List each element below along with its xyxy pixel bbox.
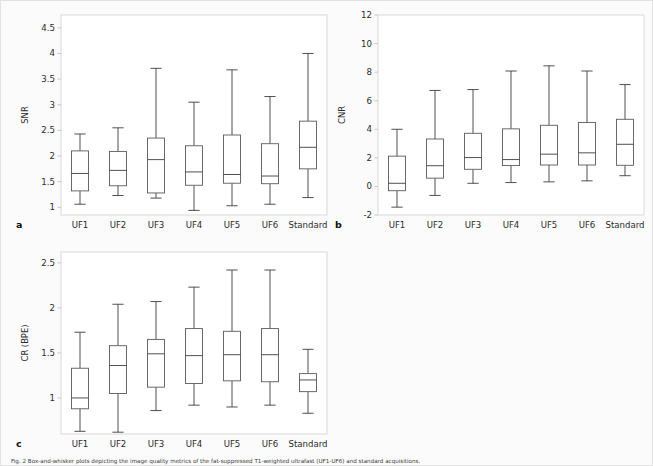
y-axis-tick-label: 4 xyxy=(367,124,372,134)
y-axis-tick-label: 3 xyxy=(50,100,55,110)
x-axis-label-uf6: UF6 xyxy=(262,220,279,230)
x-axis-label-uf5: UF5 xyxy=(541,220,558,230)
panel-b-cnr: -2024681012CNRUF1UF2UF3UF4UF5UF6Standard… xyxy=(334,7,652,239)
box-iqr xyxy=(262,144,279,184)
y-axis-tick-label: 2 xyxy=(50,303,55,313)
y-axis-title: CR (BPE) xyxy=(20,325,30,362)
x-axis-label-uf3: UF3 xyxy=(148,439,165,449)
y-axis-tick-label: 2.5 xyxy=(41,125,55,135)
box-iqr xyxy=(186,146,203,185)
x-axis-label-uf5: UF5 xyxy=(224,220,241,230)
box-iqr xyxy=(465,133,482,169)
box-iqr xyxy=(224,331,241,381)
x-axis-label-uf3: UF3 xyxy=(148,220,165,230)
box-iqr xyxy=(72,151,89,191)
y-axis-tick-label: 4 xyxy=(50,48,55,58)
x-axis-label-uf4: UF4 xyxy=(503,220,520,230)
panel-c-chart: 11.522.5CR (BPE)UF1UF2UF3UF4UF5UF6Standa… xyxy=(15,244,335,458)
x-axis-label-uf4: UF4 xyxy=(186,439,203,449)
x-axis-label-uf3: UF3 xyxy=(465,220,482,230)
x-axis-label-uf2: UF2 xyxy=(427,220,444,230)
box-iqr xyxy=(148,339,165,387)
box-iqr xyxy=(503,129,520,166)
x-axis-label-standard: Standard xyxy=(605,220,644,230)
box-iqr xyxy=(427,139,444,178)
y-axis-tick-label: 8 xyxy=(367,67,372,77)
box-iqr xyxy=(110,346,127,394)
panel-a-chart: 11.522.533.544.5SNRUF1UF2UF3UF4UF5UF6Sta… xyxy=(15,7,335,239)
x-axis-label-uf4: UF4 xyxy=(186,220,203,230)
panel-b-chart: -2024681012CNRUF1UF2UF3UF4UF5UF6Standard… xyxy=(334,7,652,239)
y-axis-title: CNR xyxy=(337,106,347,124)
y-axis-tick-label: 1.5 xyxy=(41,177,55,187)
x-axis-label-uf1: UF1 xyxy=(72,220,89,230)
y-axis-tick-label: -2 xyxy=(363,210,372,220)
y-axis-tick-label: 0 xyxy=(367,181,372,191)
box-iqr xyxy=(579,122,596,165)
y-axis-tick-label: 2.5 xyxy=(41,258,55,268)
x-axis-label-uf2: UF2 xyxy=(110,220,127,230)
box-iqr xyxy=(389,156,406,191)
y-axis-tick-label: 2 xyxy=(50,151,55,161)
box-iqr xyxy=(300,374,317,392)
x-axis-label-uf5: UF5 xyxy=(224,439,241,449)
box-iqr xyxy=(224,135,241,183)
box-iqr xyxy=(541,125,558,165)
box-iqr xyxy=(262,329,279,382)
y-axis-tick-label: 6 xyxy=(367,96,372,106)
y-axis-tick-label: 2 xyxy=(367,153,372,163)
box-iqr xyxy=(300,121,317,169)
x-axis-label-standard: Standard xyxy=(288,439,327,449)
box-iqr xyxy=(617,119,634,165)
y-axis-tick-label: 3.5 xyxy=(41,74,55,84)
box-iqr xyxy=(110,151,127,185)
figure-container: 11.522.533.544.5SNRUF1UF2UF3UF4UF5UF6Sta… xyxy=(0,0,653,466)
y-axis-tick-label: 1 xyxy=(50,202,55,212)
box-iqr xyxy=(148,138,165,193)
y-axis-tick-label: 4.5 xyxy=(41,23,55,33)
y-axis-tick-label: 10 xyxy=(361,39,372,49)
panel-letter-a: a xyxy=(16,219,22,230)
panel-letter-c: c xyxy=(16,438,22,449)
y-axis-tick-label: 1 xyxy=(50,393,55,403)
box-iqr xyxy=(72,368,89,409)
x-axis-label-uf2: UF2 xyxy=(110,439,127,449)
y-axis-title: SNR xyxy=(20,106,30,124)
y-axis-tick-label: 1.5 xyxy=(41,348,55,358)
x-axis-label-uf6: UF6 xyxy=(262,439,279,449)
x-axis-label-uf1: UF1 xyxy=(389,220,406,230)
x-axis-label-uf1: UF1 xyxy=(72,439,89,449)
figure-caption: Fig. 2 Box-and-whisker plots depicting t… xyxy=(11,458,651,465)
y-axis-tick-label: 12 xyxy=(361,10,372,20)
x-axis-label-uf6: UF6 xyxy=(579,220,596,230)
panel-letter-b: b xyxy=(335,219,342,230)
box-iqr xyxy=(186,329,203,384)
panel-c-cr-bpe: 11.522.5CR (BPE)UF1UF2UF3UF4UF5UF6Standa… xyxy=(15,244,335,458)
panel-a-snr: 11.522.533.544.5SNRUF1UF2UF3UF4UF5UF6Sta… xyxy=(15,7,335,239)
x-axis-label-standard: Standard xyxy=(288,220,327,230)
